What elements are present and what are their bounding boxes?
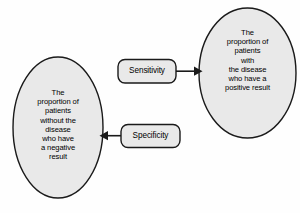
box-specificity[interactable] xyxy=(121,125,180,148)
ellipse-negative-result[interactable] xyxy=(13,57,103,198)
box-sensitivity[interactable] xyxy=(118,60,176,84)
diagram-canvas: The proportion of patients without the d… xyxy=(0,0,300,213)
ellipse-positive-result[interactable] xyxy=(199,8,296,138)
diagram-svg xyxy=(0,0,300,213)
caption-fragment xyxy=(52,204,212,211)
